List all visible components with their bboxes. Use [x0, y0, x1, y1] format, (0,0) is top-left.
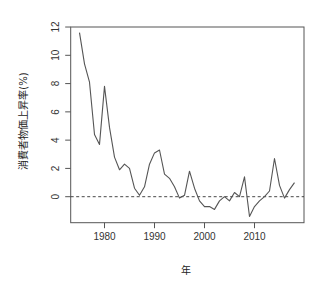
inflation-series-line — [80, 33, 295, 217]
y-tick-label: 10 — [50, 49, 61, 61]
x-tick-label: 1980 — [93, 231, 116, 242]
y-tick-label: 2 — [50, 165, 61, 171]
y-axis-title: 消費者物価上昇率(%) — [17, 72, 29, 169]
x-axis-title: 年 — [181, 264, 191, 276]
y-axis: 024681012 — [50, 21, 71, 199]
x-tick-label: 2000 — [193, 231, 216, 242]
y-tick-label: 12 — [50, 21, 61, 33]
cpi-inflation-chart: 024681012 1980199020002010 年 消費者物価上昇率(%) — [0, 0, 322, 288]
y-tick-label: 8 — [50, 80, 61, 86]
y-tick-label: 0 — [50, 193, 61, 199]
x-tick-label: 1990 — [143, 231, 166, 242]
plot-frame — [71, 27, 304, 223]
y-tick-label: 6 — [50, 109, 61, 115]
y-tick-label: 4 — [50, 137, 61, 143]
x-axis: 1980199020002010 — [93, 223, 266, 242]
x-tick-label: 2010 — [243, 231, 266, 242]
